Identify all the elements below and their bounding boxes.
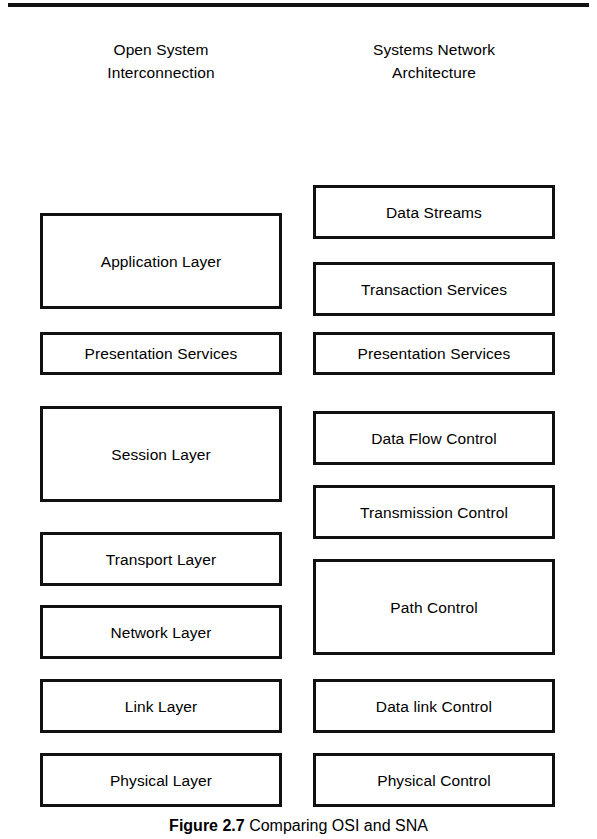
sna-layer-box[interactable]: Data Flow Control bbox=[313, 411, 555, 465]
sna-layer-box[interactable]: Physical Control bbox=[313, 753, 555, 807]
sna-layer-label: Transmission Control bbox=[360, 503, 508, 522]
figure-caption-text: Comparing OSI and SNA bbox=[249, 817, 428, 834]
sna-layer-box[interactable]: Transaction Services bbox=[313, 262, 555, 316]
osi-layer-label: Network Layer bbox=[110, 623, 211, 642]
osi-layer-box[interactable]: Presentation Services bbox=[40, 332, 282, 375]
sna-layer-label: Data Streams bbox=[386, 203, 482, 222]
sna-layer-box[interactable]: Data Streams bbox=[313, 185, 555, 239]
sna-layer-label: Data link Control bbox=[376, 697, 492, 716]
osi-layer-box[interactable]: Network Layer bbox=[40, 605, 282, 659]
figure-caption: Figure 2.7 Comparing OSI and SNA bbox=[0, 816, 597, 836]
sna-layer-stack: Data StreamsTransaction ServicesPresenta… bbox=[313, 0, 565, 839]
sna-layer-label: Physical Control bbox=[377, 771, 491, 790]
osi-layer-label: Session Layer bbox=[111, 445, 211, 464]
osi-layer-box[interactable]: Link Layer bbox=[40, 679, 282, 733]
sna-layer-label: Data Flow Control bbox=[371, 429, 497, 448]
osi-layer-box[interactable]: Session Layer bbox=[40, 406, 282, 502]
sna-layer-box[interactable]: Data link Control bbox=[313, 679, 555, 733]
osi-layer-label: Application Layer bbox=[101, 252, 222, 271]
sna-layer-box[interactable]: Transmission Control bbox=[313, 485, 555, 539]
osi-layer-box[interactable]: Application Layer bbox=[40, 213, 282, 309]
osi-layer-label: Presentation Services bbox=[85, 344, 238, 363]
sna-layer-label: Transaction Services bbox=[361, 280, 507, 299]
osi-layer-label: Transport Layer bbox=[106, 550, 216, 569]
osi-layer-stack: Application LayerPresentation ServicesSe… bbox=[40, 0, 292, 839]
figure-caption-label: Figure 2.7 bbox=[169, 817, 245, 834]
osi-layer-box[interactable]: Physical Layer bbox=[40, 753, 282, 807]
sna-layer-label: Presentation Services bbox=[358, 344, 511, 363]
sna-layer-box[interactable]: Presentation Services bbox=[313, 332, 555, 375]
sna-layer-box[interactable]: Path Control bbox=[313, 559, 555, 655]
osi-layer-label: Physical Layer bbox=[110, 771, 212, 790]
osi-layer-label: Link Layer bbox=[125, 697, 198, 716]
sna-layer-label: Path Control bbox=[390, 598, 477, 617]
osi-layer-box[interactable]: Transport Layer bbox=[40, 532, 282, 586]
